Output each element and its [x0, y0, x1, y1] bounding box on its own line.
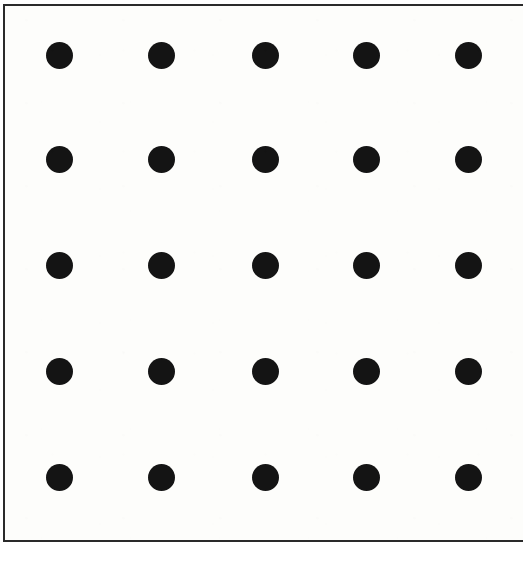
dot-r1-c3 — [252, 42, 279, 69]
dot-r3-c2 — [148, 252, 175, 279]
dot-r4-c1 — [46, 358, 73, 385]
dot-r4-c4 — [353, 358, 380, 385]
dot-r4-c2 — [148, 358, 175, 385]
dot-r5-c4 — [353, 464, 380, 491]
dot-r5-c5 — [455, 464, 482, 491]
dot-r2-c1 — [46, 146, 73, 173]
dot-r5-c1 — [46, 464, 73, 491]
dot-r2-c4 — [353, 146, 380, 173]
dot-r2-c5 — [455, 146, 482, 173]
dot-r3-c3 — [252, 252, 279, 279]
dot-r1-c1 — [46, 42, 73, 69]
dot-r5-c3 — [252, 464, 279, 491]
dot-r1-c4 — [353, 42, 380, 69]
dot-r3-c4 — [353, 252, 380, 279]
dot-r1-c2 — [148, 42, 175, 69]
dot-r3-c5 — [455, 252, 482, 279]
dot-r2-c3 — [252, 146, 279, 173]
dot-r1-c5 — [455, 42, 482, 69]
dot-r4-c3 — [252, 358, 279, 385]
dot-r5-c2 — [148, 464, 175, 491]
dot-r3-c1 — [46, 252, 73, 279]
bounding-rectangle — [3, 4, 523, 542]
dot-r2-c2 — [148, 146, 175, 173]
dot-r4-c5 — [455, 358, 482, 385]
